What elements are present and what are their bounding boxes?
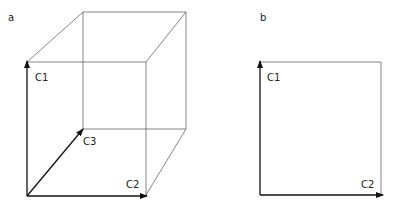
- axis-label-c2: C2: [126, 179, 139, 190]
- axis-label-c1: C1: [35, 72, 48, 83]
- figure: a C1 C2 C3 b: [0, 0, 396, 202]
- panel-a-label: a: [8, 12, 14, 23]
- axis-c3-arrow: [27, 129, 83, 196]
- panel-b: b C1 C2: [260, 12, 383, 195]
- axis-label-c1: C1: [267, 72, 280, 83]
- panel-a: a C1 C2 C3: [8, 12, 186, 196]
- axis-label-c3: C3: [83, 136, 96, 147]
- axis-label-c2: C2: [361, 179, 374, 190]
- panel-b-label: b: [260, 12, 266, 23]
